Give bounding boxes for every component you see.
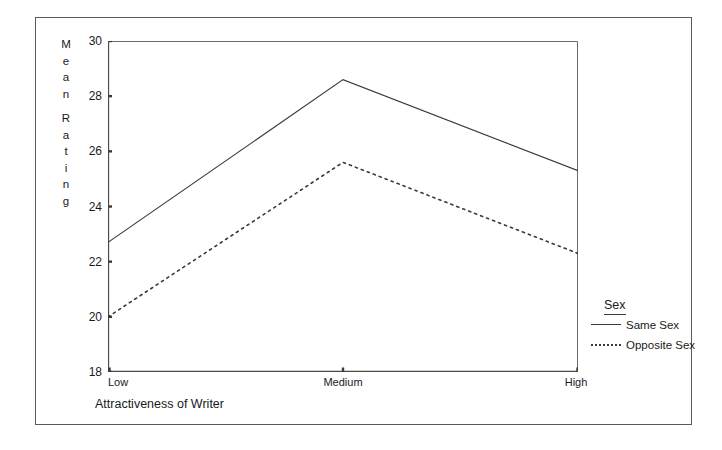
y-axis-tick-label: 24 [76,201,102,213]
y-axis-tick-label: 26 [76,145,102,157]
plot-area [108,41,578,372]
legend-label: Same Sex [626,318,679,332]
x-axis-tick-label: High [565,376,588,389]
x-axis-tick-label: Medium [323,376,362,389]
legend-key-solid [591,324,621,325]
y-axis-tick-label: 28 [76,90,102,102]
legend-title: Sex [604,298,626,315]
x-axis-tick-label: Low [108,376,128,389]
plot-frame-outline [109,42,578,372]
y-axis-tick-label: 22 [76,256,102,268]
y-axis-tick-labels: 18202224262830 [72,41,102,372]
legend-label: Opposite Sex [626,338,695,352]
legend-entry: Opposite Sex [604,335,696,355]
legend-entries: Same SexOpposite Sex [604,315,696,355]
series-line-same-sex [108,80,578,243]
y-axis-tick-label: 30 [76,35,102,47]
x-axis-ticks [110,368,578,372]
legend-key-dotted [591,344,621,346]
data-series-group [108,80,578,317]
x-axis-tick-labels: LowMediumHigh [108,376,578,392]
y-axis-tick-label: 18 [76,366,102,378]
y-axis-ticks [109,41,113,372]
series-line-opposite-sex [108,162,578,316]
x-axis-title: Attractiveness of Writer [95,397,224,412]
plot-canvas [108,41,578,372]
legend: Sex Same SexOpposite Sex [604,295,696,355]
y-axis-tick-label: 20 [76,311,102,323]
legend-entry: Same Sex [604,315,696,335]
